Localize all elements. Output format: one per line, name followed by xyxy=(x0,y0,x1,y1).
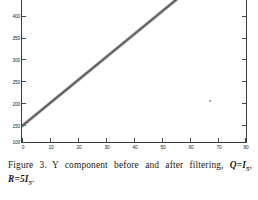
x-axis-tick-70: 70 xyxy=(218,138,219,142)
y-axis-right-tick-350 xyxy=(242,38,246,39)
x-axis-tick-30: 30 xyxy=(106,138,107,142)
caption-math-r-value: 5I xyxy=(20,174,29,184)
y-axis-right-tick-300 xyxy=(242,59,246,60)
caption-math-q: Q=I5 xyxy=(230,160,250,170)
figure-3-plot-area: 500 450 400 350 300 250 200 150 xyxy=(0,0,258,155)
caption-math-separator: , xyxy=(250,160,253,170)
plot-axes-box: 500 450 400 350 300 250 200 150 xyxy=(21,0,247,143)
y-axis-tick-250: 250 xyxy=(22,81,26,82)
y-axis-label-200: 200 xyxy=(2,102,20,107)
figure-caption: Figure 3.Y component before and after fi… xyxy=(8,160,252,189)
x-axis-tick-20: 20 xyxy=(78,138,79,142)
trace-svg xyxy=(22,0,246,142)
trace-before-filtering xyxy=(22,0,246,126)
y-axis-tick-300: 300 xyxy=(22,59,26,60)
x-axis-label-80: 80 xyxy=(238,145,254,150)
x-axis-tick-50: 50 xyxy=(162,138,163,142)
x-axis-tick-60: 60 xyxy=(190,138,191,142)
data-traces xyxy=(22,0,246,142)
x-axis-label-50: 50 xyxy=(155,145,171,150)
x-axis-tick-10: 10 xyxy=(50,138,51,142)
y-axis-tick-400: 400 xyxy=(22,16,26,17)
y-axis-label-300: 300 xyxy=(2,58,20,63)
y-axis-right-tick-400 xyxy=(242,16,246,17)
x-axis-tick-80: 80 xyxy=(245,138,246,142)
x-axis-tick-0: 0 xyxy=(22,138,23,142)
y-axis-tick-150: 150 xyxy=(22,125,26,126)
y-axis-label-350: 350 xyxy=(2,36,20,41)
y-axis-label-250: 250 xyxy=(2,80,20,85)
x-axis-label-70: 70 xyxy=(211,145,227,150)
x-axis-label-0: 0 xyxy=(15,145,31,150)
x-axis-label-40: 40 xyxy=(127,145,143,150)
outlier-sample-marker xyxy=(209,100,211,102)
x-axis-tick-40: 40 xyxy=(134,138,135,142)
y-axis-right-tick-200 xyxy=(242,103,246,104)
caption-math-q-var: Q xyxy=(230,160,237,170)
trace-noise-speckle xyxy=(26,0,240,123)
y-axis-right-tick-250 xyxy=(242,81,246,82)
y-axis-tick-350: 350 xyxy=(22,38,26,39)
y-axis-label-400: 400 xyxy=(2,14,20,19)
trace-after-filtering xyxy=(22,0,246,126)
caption-period: . xyxy=(32,174,35,184)
caption-body-text: Y component before and after filtering, xyxy=(52,160,224,170)
caption-figure-label: Figure 3. xyxy=(8,160,47,170)
caption-math-r: R=5I5 xyxy=(8,174,32,184)
y-axis-label-150: 150 xyxy=(2,124,20,129)
y-axis-right-tick-150 xyxy=(242,125,246,126)
x-axis-label-30: 30 xyxy=(99,145,115,150)
x-axis-label-60: 60 xyxy=(183,145,199,150)
y-axis-tick-200: 200 xyxy=(22,103,26,104)
x-axis-label-10: 10 xyxy=(43,145,59,150)
x-axis-label-20: 20 xyxy=(71,145,87,150)
